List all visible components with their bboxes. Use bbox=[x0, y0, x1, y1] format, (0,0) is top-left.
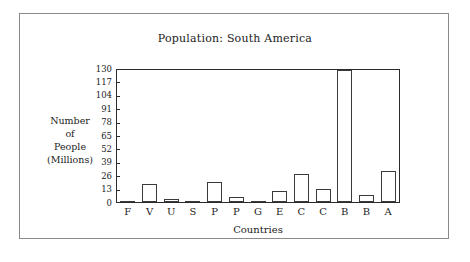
y-tick-mark bbox=[116, 163, 120, 164]
y-tick-label: 78 bbox=[86, 118, 112, 127]
y-tick-label: 39 bbox=[86, 158, 112, 167]
bar bbox=[272, 191, 287, 202]
x-axis-tick-labels: FVUSPPGECCBBA bbox=[117, 205, 399, 221]
y-tick-label: 0 bbox=[86, 199, 112, 208]
bar bbox=[359, 195, 374, 202]
y-tick-label: 52 bbox=[86, 145, 112, 154]
bar bbox=[142, 184, 157, 202]
y-tick-mark bbox=[116, 123, 120, 124]
y-tick-label: 91 bbox=[86, 105, 112, 114]
y-tick-mark bbox=[116, 109, 120, 110]
x-tick-label: F bbox=[117, 205, 139, 218]
x-tick-label: G bbox=[247, 205, 269, 218]
y-tick-label: 104 bbox=[86, 91, 112, 100]
x-tick-label: B bbox=[334, 205, 356, 218]
x-tick-label: P bbox=[225, 205, 247, 218]
bar bbox=[185, 201, 200, 202]
bar bbox=[207, 182, 222, 202]
y-tick-mark bbox=[116, 149, 120, 150]
y-tick-mark bbox=[116, 82, 120, 83]
x-tick-label: E bbox=[269, 205, 291, 218]
y-tick-label: 65 bbox=[86, 132, 112, 141]
x-tick-label: C bbox=[312, 205, 334, 218]
bar bbox=[316, 189, 331, 202]
x-tick-label: B bbox=[356, 205, 378, 218]
chart-title: Population: South America bbox=[0, 32, 470, 45]
y-tick-mark bbox=[116, 176, 120, 177]
y-tick-mark bbox=[116, 136, 120, 137]
y-tick-label: 13 bbox=[86, 185, 112, 194]
y-tick-label: 117 bbox=[86, 78, 112, 87]
x-tick-label: U bbox=[160, 205, 182, 218]
bar bbox=[381, 171, 396, 202]
chart-page: Population: South America Number of Peop… bbox=[0, 0, 470, 262]
x-tick-label: C bbox=[291, 205, 313, 218]
x-axis-label: Countries bbox=[116, 224, 400, 235]
bar bbox=[294, 174, 309, 202]
bar bbox=[229, 197, 244, 202]
bar bbox=[251, 201, 266, 202]
x-tick-label: V bbox=[139, 205, 161, 218]
bar bbox=[120, 201, 135, 202]
bar bbox=[164, 199, 179, 202]
y-tick-label: 130 bbox=[86, 65, 112, 74]
x-tick-label: A bbox=[377, 205, 399, 218]
bars-layer bbox=[117, 70, 399, 202]
x-tick-label: P bbox=[204, 205, 226, 218]
y-tick-label: 26 bbox=[86, 172, 112, 181]
y-tick-mark bbox=[116, 96, 120, 97]
y-axis-tick-labels: 013263952657891104117130 bbox=[86, 69, 112, 203]
bar bbox=[337, 70, 352, 202]
y-tick-mark bbox=[116, 190, 120, 191]
x-tick-label: S bbox=[182, 205, 204, 218]
